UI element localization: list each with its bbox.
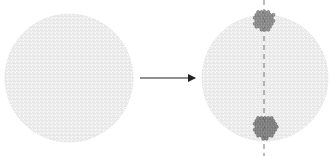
bead-sphere-body [5, 14, 133, 142]
diagram-figure [0, 0, 333, 156]
diagram-canvas [0, 0, 333, 156]
left-sphere [5, 14, 133, 142]
